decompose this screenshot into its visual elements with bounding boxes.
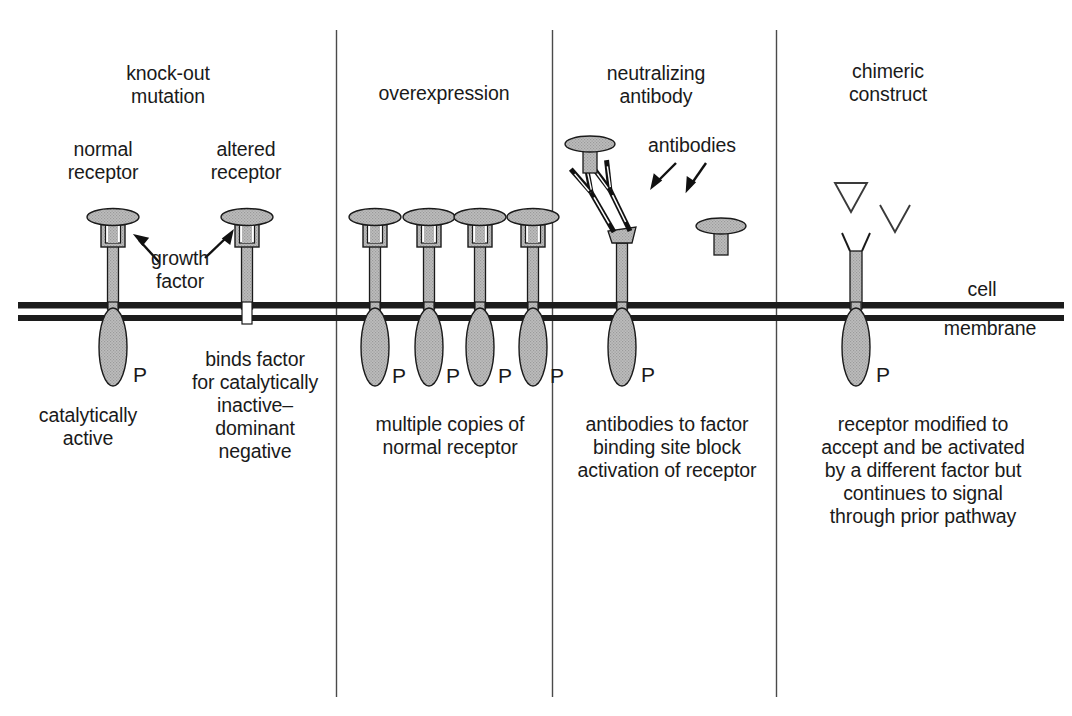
kinase-p-label-chimeric: P: [876, 363, 890, 387]
normal-receptor-glyph: [87, 209, 139, 387]
overexpr-receptor-2: [403, 209, 455, 387]
panel-antibody-graphics: [565, 136, 746, 386]
overexpr-receptor-1: [349, 209, 401, 387]
kinase-p-label-knockout: P: [133, 363, 147, 387]
kinase-p-label-over-4: P: [550, 364, 564, 388]
growth-factor-label: growth factor: [128, 247, 232, 293]
panel-title-antibody: neutralizing antibody: [568, 62, 744, 108]
normal-receptor-label: normal receptor: [40, 138, 166, 184]
cell-membrane-label-top: cell: [936, 278, 1028, 301]
antibodies-arrow-right: [687, 163, 706, 190]
panel-chimeric-graphics: [835, 183, 910, 386]
caption-overexpression: multiple copies of normal receptor: [350, 413, 550, 459]
caption-knockout-right: binds factor for catalytically inactive–…: [176, 348, 334, 463]
kinase-p-label-over-3: P: [498, 364, 512, 388]
kinase-p-label-antibody: P: [641, 363, 655, 387]
receptor-diagram-figure: knock-out mutation normal receptor alter…: [0, 0, 1072, 716]
altered-receptor-label: altered receptor: [182, 138, 310, 184]
caption-chimeric: receptor modified to accept and be activ…: [782, 413, 1064, 528]
kinase-p-label-over-2: P: [446, 364, 460, 388]
caption-knockout-left: catalytically active: [8, 404, 168, 450]
free-growth-factor-2: [696, 218, 746, 255]
panel-title-knockout: knock-out mutation: [48, 62, 288, 108]
antibodies-label: antibodies: [648, 134, 780, 157]
overexpr-receptor-3: [454, 209, 506, 387]
antibodies-arrow-left: [652, 163, 676, 187]
antibody-glyph-2: [591, 158, 639, 233]
overexpr-receptor-4: [507, 209, 559, 387]
kinase-p-label-over-1: P: [392, 364, 406, 388]
chimeric-ligand-v: [880, 205, 910, 232]
cell-membrane-label-bottom: membrane: [920, 317, 1060, 340]
caption-antibody: antibodies to factor binding site block …: [556, 413, 778, 482]
panel-title-overexpression: overexpression: [356, 82, 532, 105]
chimeric-receptor-glyph: [842, 233, 870, 386]
chimeric-ligand-triangle: [835, 183, 867, 212]
panel-overexpression-graphics: [349, 209, 559, 387]
panel-title-chimeric: chimeric construct: [800, 60, 976, 106]
